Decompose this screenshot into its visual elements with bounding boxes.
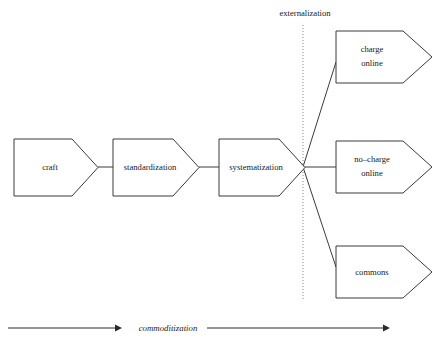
externalization-label: externalization [279,8,331,18]
outcome-charge-online-label-line2: online [361,58,383,68]
stage-standardization-label: standardization [124,162,177,172]
stage-systematization-label: systematization [229,162,283,172]
outcome-charge-online-shape [336,31,432,83]
outcome-no-charge-online-label-line2: online [361,168,383,178]
diagram-canvas: craft standardization systematization ch… [0,0,439,348]
outcome-charge-online-label-line1: charge [361,44,384,54]
commoditization-right-arrow-head [383,325,390,332]
outcome-commons[interactable]: commons [336,246,432,298]
outcome-no-charge-online-label-line1: no–charge [354,154,390,164]
commoditization-axis: commoditization [8,323,390,333]
commoditization-axis-label: commoditization [139,323,198,333]
stage-standardization[interactable]: standardization [113,139,199,196]
commoditization-left-arrow-head [115,325,122,332]
stage-craft-label: craft [42,162,58,172]
branch-line-to-charge-online [303,62,336,167]
branch-line-to-commons [303,167,336,267]
outcome-charge-online[interactable]: charge online [336,31,432,83]
outcome-commons-label: commons [355,267,389,277]
outcome-no-charge-online[interactable]: no–charge online [336,141,432,193]
stage-systematization[interactable]: systematization [219,139,305,196]
outcome-no-charge-online-shape [336,141,432,193]
diagram-root: craft standardization systematization ch… [0,0,439,348]
stage-craft[interactable]: craft [14,139,98,196]
